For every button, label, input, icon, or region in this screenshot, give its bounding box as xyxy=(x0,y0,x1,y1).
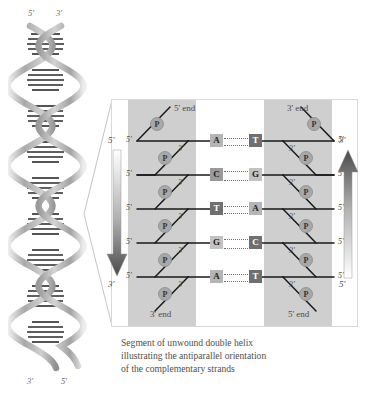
right-sugar-3prime: 3' xyxy=(289,281,295,289)
base-pair-row: A T xyxy=(210,270,262,284)
base-right: A xyxy=(249,202,262,215)
base-left: A xyxy=(210,270,223,283)
helix-bottom-left-label: 3' xyxy=(27,377,33,386)
dna-figure: 5' 3' 3' 5' xyxy=(0,0,368,417)
left-arrow-svg xyxy=(105,148,129,280)
base-right: T xyxy=(249,134,262,147)
left-sugar-5prime: 5' xyxy=(126,136,132,144)
base-right: G xyxy=(249,168,262,181)
base-pair-row: G C xyxy=(210,236,262,250)
left-sugar-3prime: 3' xyxy=(178,213,184,221)
right-arrow-bottom-label: 5' xyxy=(339,280,345,289)
left-sugar-3prime: 3' xyxy=(178,145,184,153)
right-sugar-3prime: 3' xyxy=(289,247,295,255)
right-arrow-svg xyxy=(336,148,360,280)
right-sugar-3prime: 3' xyxy=(289,179,295,187)
helix-bottom-right-label: 5' xyxy=(61,377,67,386)
detail-panel: P P P P P P xyxy=(111,99,358,327)
base-right: C xyxy=(249,236,262,249)
caption-line: of the complementary strands xyxy=(121,363,351,376)
left-direction-arrow: 5' 3' xyxy=(105,148,129,280)
hydrogen-bond xyxy=(224,239,248,249)
left-sugar-3prime: 3' xyxy=(178,247,184,255)
base-pair-row: T A xyxy=(210,202,262,216)
left-arrow-bottom-label: 3' xyxy=(108,280,114,289)
hydrogen-bond xyxy=(224,138,248,146)
helix-top-left-label: 5' xyxy=(28,9,34,18)
left-arrow-top-label: 5' xyxy=(108,136,114,145)
hydrogen-bond xyxy=(224,274,248,282)
base-pair-row: C G xyxy=(210,168,262,182)
base-pair-row: A T xyxy=(210,134,262,148)
hydrogen-bond xyxy=(224,206,248,214)
base-pair-layer: A T C G T A G C xyxy=(112,100,359,326)
right-strand-top-end-label: 3' end xyxy=(287,104,308,113)
left-sugar-3prime: 3' xyxy=(178,179,184,187)
right-sugar-3prime: 3' xyxy=(289,145,295,153)
caption-line: illustrating the antiparallel orientatio… xyxy=(121,350,351,363)
base-left: C xyxy=(210,168,223,181)
base-left: A xyxy=(210,134,223,147)
hydrogen-bond xyxy=(224,171,248,181)
right-strand-bottom-end-label: 5' end xyxy=(288,310,309,319)
base-right: T xyxy=(249,270,262,283)
caption-line: Segment of unwound double helix xyxy=(121,337,351,350)
base-left: G xyxy=(210,236,223,249)
helix-strand-2 xyxy=(39,26,84,366)
right-direction-arrow: 3' 5' xyxy=(336,148,360,280)
helix-top-right-label: 3' xyxy=(56,9,62,18)
base-left: T xyxy=(210,202,223,215)
right-arrow-top-label: 3' xyxy=(339,136,345,145)
left-strand-bottom-end-label: 3' end xyxy=(150,310,171,319)
left-strand-top-end-label: 5' end xyxy=(174,104,195,113)
left-sugar-3prime: 3' xyxy=(178,281,184,289)
right-sugar-3prime: 3' xyxy=(289,213,295,221)
figure-caption: Segment of unwound double helix illustra… xyxy=(121,337,351,376)
